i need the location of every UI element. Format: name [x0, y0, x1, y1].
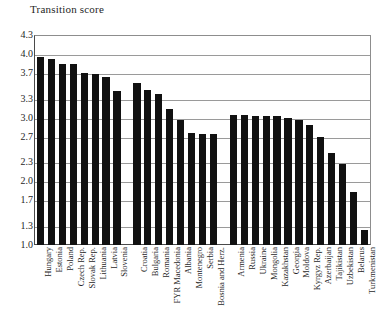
bar	[48, 59, 55, 245]
x-axis-tick-label: Estonia	[55, 247, 64, 273]
x-axis-tick-label: Tajikistan	[335, 247, 344, 280]
bars-container	[35, 35, 370, 245]
x-axis-tick: Czech Rep.	[77, 247, 86, 286]
x-axis-tick: Tajikistan	[335, 247, 344, 280]
x-axis-tick: Slovak Rep.	[88, 247, 97, 289]
y-axis-tick-label: 2.0	[3, 176, 33, 186]
x-axis-tick: Croatia	[140, 247, 149, 272]
bar	[241, 115, 248, 245]
x-axis-tick-label: FYR Macedonia	[173, 247, 182, 303]
y-axis-tick-label: 1.0	[3, 240, 33, 250]
chart-title: Transition score	[30, 3, 104, 15]
bar	[306, 125, 313, 245]
bar	[252, 116, 259, 245]
y-axis-tick-label: 1.7	[3, 195, 33, 205]
x-axis-tick: Turkmenistan	[368, 247, 377, 294]
x-axis-tick-label: Bosnia and Herz.	[217, 247, 226, 306]
y-axis-tick-label: 1.3	[3, 221, 33, 231]
bar	[37, 57, 44, 245]
x-axis-tick-label: Hungary	[44, 247, 53, 277]
bar	[350, 192, 357, 245]
bar	[295, 120, 302, 245]
x-axis-tick-label: Armenia	[237, 247, 246, 277]
x-axis-tick-label: Montenegro	[195, 247, 204, 289]
x-axis-tick: Kyrgyz Rep.	[313, 247, 322, 290]
x-axis-tick: Slovenia	[120, 247, 129, 277]
x-axis-tick-label: Belarus	[357, 247, 366, 273]
bar	[339, 164, 346, 245]
x-axis-tick: Lithuania	[99, 247, 108, 280]
x-axis-tick: Azerbaijan	[324, 247, 333, 284]
bar	[230, 115, 237, 245]
x-axis-tick-label: Bulgaria	[151, 247, 160, 276]
y-axis-tick-label: 3.3	[3, 94, 33, 104]
x-axis-tick-label: Russia	[248, 247, 257, 270]
x-axis-tick-label: Uzbekistan	[346, 247, 355, 285]
x-axis-tick: Moldova	[302, 247, 311, 278]
x-axis-tick: Albania	[184, 247, 193, 274]
bar	[188, 133, 195, 245]
x-axis-tick-label: Kazakhstan	[281, 247, 290, 287]
x-axis-tick: Bosnia and Herz.	[217, 247, 226, 306]
x-axis-tick-label: Croatia	[140, 247, 149, 272]
bar	[155, 94, 162, 245]
x-axis-tick: FYR Macedonia	[173, 247, 182, 303]
bar	[273, 116, 280, 245]
bar	[92, 74, 99, 245]
x-axis-tick: Uzbekistan	[346, 247, 355, 285]
bar	[177, 120, 184, 245]
x-axis-tick: Bulgaria	[151, 247, 160, 276]
y-axis-tick-label: 4.3	[3, 30, 33, 40]
x-axis-tick: Poland	[66, 247, 75, 271]
bar	[166, 109, 173, 245]
bar	[133, 83, 140, 245]
bar	[81, 73, 88, 245]
x-axis-labels: HungaryEstoniaPolandCzech Rep.Slovak Rep…	[35, 247, 370, 333]
x-axis-tick-label: Poland	[66, 247, 75, 271]
x-axis-tick: Belarus	[357, 247, 366, 273]
x-axis-tick-label: Azerbaijan	[324, 247, 333, 284]
x-axis-tick: Estonia	[55, 247, 64, 273]
bar	[59, 64, 66, 245]
bar	[113, 91, 120, 245]
x-axis-tick-label: Czech Rep.	[77, 247, 86, 286]
x-axis-tick-label: Albania	[184, 247, 193, 274]
x-axis-tick-label: Slovenia	[120, 247, 129, 277]
x-axis-tick-label: Moldova	[302, 247, 311, 278]
y-axis-tick-label: 2.3	[3, 157, 33, 167]
x-axis-tick-label: Serbia	[206, 247, 215, 269]
x-axis-tick: Latvia	[110, 247, 119, 269]
x-axis-tick: Montenegro	[195, 247, 204, 289]
x-axis-tick: Romania	[162, 247, 171, 278]
x-axis-tick-label: Mongolia	[270, 247, 279, 280]
x-axis-tick-label: Ukraine	[259, 247, 268, 274]
x-axis-tick: Georgia	[292, 247, 301, 274]
x-axis-tick-label: Kyrgyz Rep.	[313, 247, 322, 290]
bar	[70, 64, 77, 245]
y-axis-tick-label: 2.7	[3, 132, 33, 142]
x-axis-tick-label: Romania	[162, 247, 171, 278]
x-axis-tick: Mongolia	[270, 247, 279, 280]
x-axis-tick: Hungary	[44, 247, 53, 277]
bar	[317, 137, 324, 245]
y-axis-tick-label: 3.0	[3, 113, 33, 123]
x-axis-tick-label: Turkmenistan	[368, 247, 377, 294]
y-axis-tick-label: 4.0	[3, 49, 33, 59]
x-axis-tick-label: Lithuania	[99, 247, 108, 280]
bar	[361, 230, 368, 245]
x-axis-tick-label: Slovak Rep.	[88, 247, 97, 289]
bar	[284, 118, 291, 245]
bar	[210, 134, 217, 245]
x-axis-tick: Armenia	[237, 247, 246, 277]
x-axis-tick-label: Latvia	[110, 247, 119, 269]
bar	[263, 116, 270, 245]
x-axis-tick: Kazakhstan	[281, 247, 290, 287]
bar	[328, 153, 335, 245]
bar	[199, 134, 206, 245]
x-axis-tick-label: Georgia	[292, 247, 301, 274]
x-axis-tick: Serbia	[206, 247, 215, 269]
bar	[102, 77, 109, 245]
y-axis-tick-label: 3.7	[3, 68, 33, 78]
bar	[144, 90, 151, 245]
